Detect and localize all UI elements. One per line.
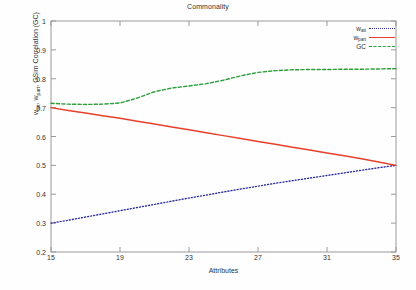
legend-swatch-w-att bbox=[369, 24, 395, 33]
x-tick-label: 15 bbox=[39, 254, 63, 261]
y-tick-label: 0.5 bbox=[20, 162, 46, 169]
y-tick-label: 0.8 bbox=[20, 75, 46, 82]
x-tick-label: 31 bbox=[315, 254, 339, 261]
y-tick-label: 0.7 bbox=[20, 104, 46, 111]
legend-label-gc: GC bbox=[356, 42, 369, 52]
y-tick-label: 0.4 bbox=[20, 191, 46, 198]
y-tick-label: 0.3 bbox=[20, 220, 46, 227]
x-tick-label: 23 bbox=[177, 254, 201, 261]
y-tick-label: 0.6 bbox=[20, 133, 46, 140]
x-axis-tick-marks bbox=[51, 21, 396, 252]
x-tick-label: 35 bbox=[384, 254, 408, 261]
series-line-w-part bbox=[51, 108, 396, 166]
y-axis-tick-marks bbox=[51, 21, 396, 252]
legend-swatch-w-part bbox=[369, 33, 395, 42]
chart-figure: Commonality watt, wpart, GSim Correlatio… bbox=[0, 0, 416, 290]
x-tick-label: 19 bbox=[108, 254, 132, 261]
series-line-w-att bbox=[51, 165, 396, 223]
y-tick-label: 0.9 bbox=[20, 46, 46, 53]
legend-item-gc: GC bbox=[337, 42, 395, 51]
series-line-GC bbox=[51, 69, 396, 105]
chart-legend: watt wpart GC bbox=[337, 24, 395, 51]
data-series-group bbox=[51, 69, 396, 223]
x-tick-label: 27 bbox=[246, 254, 270, 261]
figure-caption-strip bbox=[0, 281, 416, 290]
y-tick-label: 1 bbox=[20, 18, 46, 25]
plot-frame bbox=[51, 21, 396, 252]
legend-swatch-gc bbox=[369, 42, 395, 51]
